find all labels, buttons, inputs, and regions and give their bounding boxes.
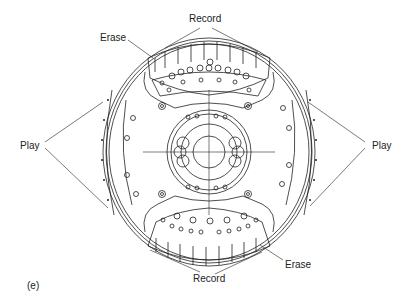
erase-label-top: Erase xyxy=(100,33,126,43)
crosshair xyxy=(143,90,275,215)
play-label-left: Play xyxy=(20,141,39,151)
record-label-bottom: Record xyxy=(193,274,225,284)
record-label-top: Record xyxy=(189,14,221,24)
head-drum-diagram xyxy=(0,0,412,300)
leader-lines xyxy=(45,28,365,274)
panel-label: (e) xyxy=(27,281,39,291)
erase-label-bottom: Erase xyxy=(285,260,311,270)
play-label-right: Play xyxy=(372,141,391,151)
